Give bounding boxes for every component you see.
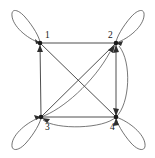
vertex-dot-3[interactable] <box>39 115 44 120</box>
self-loop-vertex-3 <box>12 117 41 150</box>
vertex-label-2: 2 <box>108 30 113 40</box>
graph-canvas: 1 2 3 4 <box>0 0 155 158</box>
edge-4-to-3-curved-bottom <box>43 117 116 127</box>
arrowhead-into-vertex-1-vertical <box>37 45 43 52</box>
self-loop-vertex-2 <box>116 10 144 43</box>
graph-figure: 1 2 3 4 <box>0 0 155 158</box>
vertex-label-1: 1 <box>45 30 50 40</box>
edge-4-to-2-curved-right <box>116 46 128 117</box>
vertex-label-4: 4 <box>110 122 115 132</box>
vertex-dot-2[interactable] <box>114 41 119 46</box>
self-loop-vertex-1 <box>12 10 40 43</box>
vertex-label-3: 3 <box>45 122 50 132</box>
self-loop-vertex-4 <box>116 117 145 150</box>
edge-1-to-3-left <box>40 43 41 117</box>
vertex-dot-4[interactable] <box>114 115 119 120</box>
vertex-dot-1[interactable] <box>38 41 43 46</box>
diagonal-edge-group <box>40 43 116 117</box>
